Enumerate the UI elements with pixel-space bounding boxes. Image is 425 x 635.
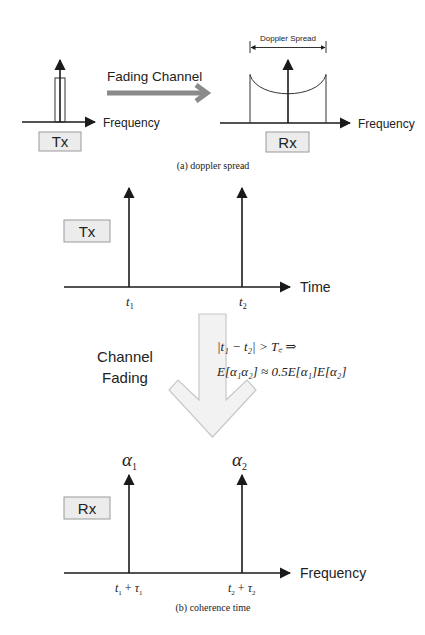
rx-axis-label: Frequency (358, 117, 415, 131)
tx-label-b: Tx (79, 223, 96, 240)
rx-spectrum: Doppler Spread Frequency Rx (220, 34, 415, 152)
fading-diagram: Frequency Tx Fading Channel Doppler Spre… (0, 0, 425, 635)
amplitude-alpha1: α1 (122, 449, 137, 472)
rx-label: Rx (278, 134, 297, 151)
formula-line2: E[α₁α₂] ≈ 0.5E[α₁]E[α₂] (216, 364, 346, 379)
tick-t2: t2 (239, 294, 247, 311)
rx-label-b: Rx (78, 500, 97, 517)
formula-line1: |t₁ − t₂| > T꜀ ⇒ (217, 339, 296, 354)
fading-channel-label: Fading Channel (107, 69, 202, 84)
tick-t2-tau2: t2 + τ2 (228, 581, 256, 597)
channel-fading: Channel Fading |t₁ − t₂| > T꜀ ⇒ E[α₁α₂] … (97, 314, 346, 437)
tx-time-domain: Tx Time t1 t2 (64, 188, 331, 311)
channel-fading-label-line1: Channel (97, 348, 153, 365)
panel-a-doppler-spread: Frequency Tx Fading Channel Doppler Spre… (22, 34, 415, 172)
panel-b-coherence-time: Tx Time t1 t2 Channel Fading |t₁ − t₂| >… (64, 188, 366, 614)
fading-channel: Fading Channel (107, 69, 207, 101)
rx-axis-label-b: Frequency (300, 565, 366, 581)
tick-t1: t1 (126, 294, 134, 311)
tx-axis-label: Frequency (103, 116, 160, 130)
amplitude-alpha2: α2 (232, 449, 247, 472)
time-axis-label: Time (300, 279, 331, 295)
caption-a: (a) doppler spread (177, 160, 250, 172)
tick-t1-tau1: t1 + τ1 (115, 581, 143, 597)
tx-label: Tx (52, 133, 69, 150)
channel-fading-label-line2: Fading (102, 369, 148, 386)
rx-frequency-domain: α1 α2 Rx Frequency t1 + τ1 t2 + τ2 (64, 449, 366, 597)
caption-b: (b) coherence time (176, 602, 252, 614)
doppler-spread-label: Doppler Spread (260, 34, 316, 43)
